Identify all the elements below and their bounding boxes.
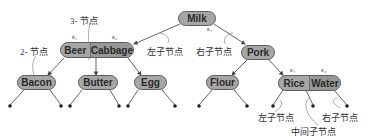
key-label-k2: κ₂ xyxy=(112,34,117,40)
key-egg: Egg xyxy=(141,77,160,88)
three-node-beer-cabbage: Beer Cabbage xyxy=(60,42,134,58)
node-pork: Pork xyxy=(241,45,275,60)
root-node-milk: Milk xyxy=(178,11,216,26)
node-bacon: Bacon xyxy=(17,75,56,90)
annotation-left-child-top: 左子节点 xyxy=(147,45,183,58)
key-bacon: Bacon xyxy=(21,77,52,88)
annotation-middle-child-bottom: 中间子节点 xyxy=(291,125,336,138)
key-butter: Butter xyxy=(83,77,112,88)
node-egg: Egg xyxy=(134,75,167,90)
annotation-right-child-top: 右子节点 xyxy=(196,45,232,58)
key-pork: Pork xyxy=(247,47,269,58)
node-flour: Flour xyxy=(206,75,239,90)
key-beer: Beer xyxy=(61,43,90,57)
annotation-three-node: 3- 节点 xyxy=(70,14,98,27)
annotation-two-node: 2- 节点 xyxy=(20,45,48,58)
annotation-left-child-bottom: 左子节点 xyxy=(258,111,294,124)
key-water: Water xyxy=(309,76,340,90)
three-node-rice-water: Rice Water xyxy=(278,75,341,91)
key-cabbage: Cabbage xyxy=(90,43,133,57)
key-rice: Rice xyxy=(279,76,309,90)
key-label-k1: κ₁ xyxy=(290,67,295,73)
key-label-k1: κ₁ xyxy=(72,34,77,40)
node-butter: Butter xyxy=(78,75,118,90)
key-milk: Milk xyxy=(187,13,206,24)
b-tree-diagram: Milk κ₁ Beer Cabbage κ₁ κ₂ Pork Bacon Bu… xyxy=(0,0,367,139)
root-key-label: κ₁ xyxy=(207,26,212,32)
key-flour: Flour xyxy=(210,77,235,88)
annotation-right-child-bottom: 右子节点 xyxy=(322,111,358,124)
key-label-k2: κ₂ xyxy=(321,67,326,73)
